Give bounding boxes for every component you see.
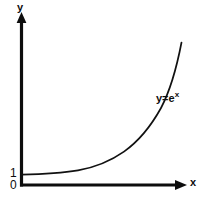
curve-equation-exponent: x	[175, 90, 179, 99]
y-axis-label: y	[17, 2, 23, 13]
exponential-function-figure: y x 1 0 y=ex	[0, 0, 203, 203]
x-axis-label: x	[190, 177, 196, 188]
x-axis-arrowhead-icon	[175, 180, 187, 190]
origin-tick-label: 0	[10, 179, 17, 191]
exponential-curve	[22, 43, 182, 175]
curve-equation-label: y=ex	[156, 91, 179, 104]
y-axis-arrowhead-icon	[17, 12, 27, 23]
curve-equation-base: y=e	[156, 92, 175, 104]
